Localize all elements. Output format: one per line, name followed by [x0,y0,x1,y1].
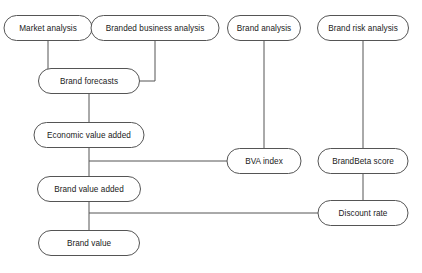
node-label-brandbeta-score: BrandBeta score [332,157,394,166]
node-label-brand-analysis: Brand analysis [237,24,291,33]
node-label-discount-rate: Discount rate [339,209,388,218]
edge-branded-business-analysis-to-brand-forecasts [140,41,156,82]
node-brand-analysis[interactable]: Brand analysis [228,16,301,41]
node-economic-value-added[interactable]: Economic value added [34,123,144,148]
node-brandbeta-score[interactable]: BrandBeta score [318,149,408,174]
node-branded-business-analysis[interactable]: Branded business analysis [91,16,219,41]
flowchart-diagram: Market analysisBranded business analysis… [0,0,422,273]
node-label-branded-business-analysis: Branded business analysis [106,24,205,33]
node-brand-value[interactable]: Brand value [39,231,140,256]
node-label-brand-value-added: Brand value added [54,185,124,194]
node-market-analysis[interactable]: Market analysis [4,16,92,41]
node-brand-value-added[interactable]: Brand value added [38,177,141,202]
node-label-bva-index: BVA index [245,157,283,166]
node-brand-forecasts[interactable]: Brand forecasts [39,69,140,94]
node-label-market-analysis: Market analysis [19,24,77,33]
node-bva-index[interactable]: BVA index [227,149,301,174]
node-label-brand-risk-analysis: Brand risk analysis [328,24,398,33]
node-label-brand-value: Brand value [67,239,112,248]
flowchart-canvas: Market analysisBranded business analysis… [0,0,422,273]
node-label-brand-forecasts: Brand forecasts [60,77,118,86]
node-label-economic-value-added: Economic value added [47,131,131,140]
nodes-layer: Market analysisBranded business analysis… [4,16,409,256]
node-brand-risk-analysis[interactable]: Brand risk analysis [318,16,409,41]
node-discount-rate[interactable]: Discount rate [318,201,408,226]
